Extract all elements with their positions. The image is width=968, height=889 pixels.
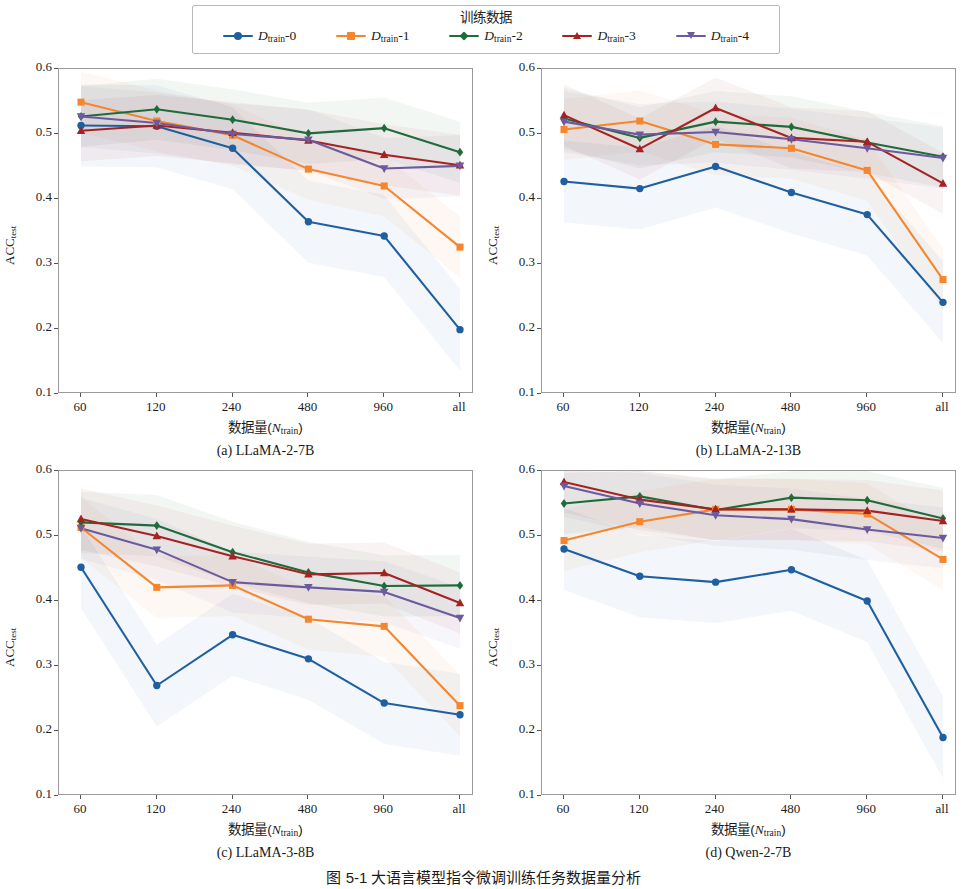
data-point-marker [939,734,946,741]
y-axis-tick-mark [537,470,541,471]
x-axis-tick-label: 60 [533,801,593,817]
x-axis-tick-mark [715,795,716,799]
x-axis-tick-mark [563,795,564,799]
data-point-marker [560,537,567,544]
data-point-marker [712,578,719,585]
data-point-marker [560,545,567,552]
plot-svg-d [542,471,957,796]
x-axis-label-sub: train [764,828,781,838]
data-point-marker [864,597,871,604]
x-axis-tick-mark [866,795,867,799]
y-axis-tick-mark [537,665,541,666]
data-point-marker [788,566,795,573]
y-axis-tick-label: 0.1 [501,786,535,802]
panel-d: 0.60.50.40.30.20.160120240480960allACCte… [0,0,968,889]
x-axis-label: 数据量(Ntrain) [541,818,956,838]
y-axis-tick-mark [537,795,541,796]
subplot-caption-d: (d) Qwen-2-7B [541,845,956,861]
y-axis-label-sub: test [491,627,501,640]
x-axis-label-var: N [755,822,764,837]
data-point-marker [636,573,643,580]
y-axis-tick-mark [537,600,541,601]
y-axis-tick-label: 0.2 [501,721,535,737]
x-axis-tick-label: 120 [609,801,669,817]
data-point-marker [636,518,643,525]
data-point-marker [939,556,946,563]
figure-root: 训练数据 Dtrain-0Dtrain-1Dtrain-2Dtrain-3Dtr… [0,0,968,889]
x-axis-tick-mark [639,795,640,799]
y-axis-tick-mark [537,730,541,731]
x-axis-tick-label: 240 [685,801,745,817]
x-axis-tick-mark [790,795,791,799]
y-axis-label: ACCtest [485,627,501,666]
y-axis-tick-label: 0.5 [501,526,535,542]
plot-area-d [541,470,956,795]
x-axis-tick-label: 480 [760,801,820,817]
x-axis-tick-label: 960 [836,801,896,817]
x-axis-tick-mark [942,795,943,799]
x-axis-tick-label: all [912,801,968,817]
y-axis-label-base: ACC [485,640,500,667]
y-axis-tick-label: 0.6 [501,461,535,477]
y-axis-tick-mark [537,535,541,536]
figure-caption: 图 5-1 大语言模型指令微调训练任务数据量分析 [0,866,968,889]
y-axis-tick-label: 0.4 [501,591,535,607]
y-axis-tick-label: 0.3 [501,656,535,672]
